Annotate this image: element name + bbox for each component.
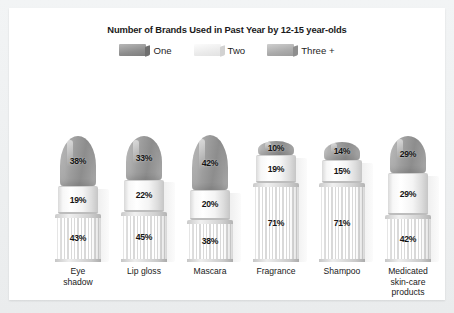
segment-two: 20% [190,190,230,220]
category-label-line: Mascara [174,266,246,277]
lipstick-bar: 33%22%45% [111,136,177,262]
chart-title: Number of Brands Used in Past Year by 12… [9,24,445,35]
category-label: Lip gloss [108,266,180,277]
lipstick-bar: 42%20%38% [177,135,243,262]
lipstick-graphic: 14%15%71% [309,142,375,262]
lipstick-graphic: 33%22%45% [111,136,177,262]
segment-two: 19% [58,186,98,215]
legend-item-three-plus: Three + [267,44,334,56]
segment-one: 71% [319,183,365,262]
segment-three-plus: 33% [126,136,162,179]
segment-three-plus: 10% [258,141,294,155]
segment-value-three-plus: 38% [70,156,87,166]
lipstick-graphic: 10%19%71% [243,141,309,262]
legend-swatch-two-icon [194,44,221,56]
category-label-line: shadow [42,277,114,288]
lipstick-bar: 14%15%71% [309,142,375,262]
segment-three-plus: 14% [324,142,360,160]
plot-area: 38%19%43%33%22%45%42%20%38%10%19%71%14%1… [9,66,445,262]
lipstick-graphic: 29%29%42% [375,136,441,263]
segment-one: 42% [385,215,431,262]
category-label-line: skin-care [372,277,444,288]
category-label-line: Lip gloss [108,266,180,277]
lipstick-bar: 29%29%42% [375,136,441,263]
category-label-line: Medicated [372,266,444,277]
segment-value-one: 42% [400,234,417,244]
segment-one: 71% [253,183,299,262]
lipstick-graphic: 38%19%43% [45,136,111,262]
figure-frame: Number of Brands Used in Past Year by 12… [0,0,454,313]
segment-one: 43% [55,214,101,262]
segment-value-three-plus: 10% [268,143,285,153]
legend-swatch-one-icon [119,44,146,56]
segment-value-three-plus: 42% [202,158,219,168]
category-label: Fragrance [240,266,312,277]
segment-value-one: 43% [70,233,87,243]
legend-item-one: One [119,44,171,56]
legend-label-three-plus: Three + [301,45,334,56]
segment-value-one: 71% [268,218,285,228]
lipstick-bar: 10%19%71% [243,141,309,262]
segment-value-three-plus: 33% [136,153,153,163]
category-label-line: products [372,287,444,298]
segment-value-two: 29% [400,189,417,199]
segment-value-one: 71% [334,218,351,228]
legend-item-two: Two [194,44,246,56]
segment-value-one: 45% [136,232,153,242]
segment-two: 29% [388,173,428,215]
chart-panel: Number of Brands Used in Past Year by 12… [9,8,445,300]
lipstick-graphic: 42%20%38% [177,135,243,262]
segment-one: 38% [187,220,233,262]
legend-swatch-three-plus-icon [267,44,294,56]
segment-value-two: 15% [334,166,351,176]
segment-two: 19% [256,155,296,184]
legend-label-two: Two [228,45,246,56]
segment-value-three-plus: 14% [334,146,351,156]
category-label: Medicatedskin-careproducts [372,266,444,298]
legend-label-one: One [153,45,171,56]
segment-value-two: 19% [268,164,285,174]
chart-legend: One Two Three + [9,44,445,56]
category-label-line: Shampoo [306,266,378,277]
segment-three-plus: 38% [60,136,96,186]
segment-value-two: 22% [136,190,153,200]
lipstick-bar: 38%19%43% [45,136,111,262]
segment-three-plus: 42% [192,135,228,190]
category-label-line: Fragrance [240,266,312,277]
category-label-line: Eye [42,266,114,277]
segment-value-one: 38% [202,236,219,246]
segment-value-three-plus: 29% [400,149,417,159]
segment-one: 45% [121,212,167,262]
segment-value-two: 19% [70,195,87,205]
category-label: Eyeshadow [42,266,114,287]
category-label: Mascara [174,266,246,277]
category-axis: EyeshadowLip glossMascaraFragranceShampo… [9,266,445,310]
segment-three-plus: 29% [390,136,426,174]
segment-value-two: 20% [202,199,219,209]
segment-two: 22% [124,180,164,213]
category-label: Shampoo [306,266,378,277]
segment-two: 15% [322,160,362,183]
